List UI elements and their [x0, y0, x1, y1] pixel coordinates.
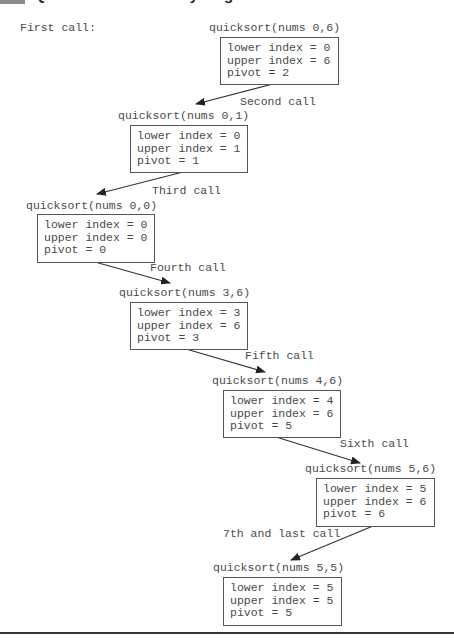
call-4-frame: lower index = 3 upper index = 6 pivot = … — [130, 302, 248, 350]
call-7-frame: lower index = 5 upper index = 5 pivot = … — [223, 577, 342, 626]
first-call-label: First call: — [20, 21, 96, 34]
call-5-arrow-label: Fifth call — [245, 349, 314, 362]
call-2-arrow-label: Second call — [240, 95, 316, 108]
call-1-signature: quicksort(nums 0,6) — [209, 21, 340, 34]
call-4-pivot: pivot = 3 — [137, 332, 247, 345]
call-7-signature: quicksort(nums 5,5) — [213, 561, 344, 574]
call-4-signature: quicksort(nums 3,6) — [119, 286, 250, 299]
call-6-frame: lower index = 5 upper index = 6 pivot = … — [316, 478, 435, 527]
call-6-signature: quicksort(nums 5,6) — [305, 462, 436, 475]
call-3-pivot: pivot = 0 — [44, 244, 154, 257]
call-4-arrow-label: Fourth call — [150, 261, 226, 274]
call-2-lower-index: lower index = 0 — [137, 130, 247, 143]
call-3-frame: lower index = 0 upper index = 0 pivot = … — [37, 214, 155, 263]
call-1-pivot: pivot = 2 — [227, 67, 338, 80]
chapter-heading: Quicksort recursion by diagram — [0, 0, 454, 4]
call-7-pivot: pivot = 5 — [230, 607, 341, 620]
call-3-signature: quicksort(nums 0,0) — [26, 199, 157, 212]
call-6-lower-index: lower index = 5 — [323, 483, 434, 496]
call-6-pivot: pivot = 6 — [323, 508, 434, 521]
figure-bottom-rule — [0, 632, 454, 634]
call-3-lower-index: lower index = 0 — [44, 219, 154, 232]
call-2-pivot: pivot = 1 — [137, 155, 247, 168]
call-1-frame: lower index = 0 upper index = 6 pivot = … — [220, 37, 339, 85]
call-5-lower-index: lower index = 4 — [230, 395, 340, 408]
call-7-lower-index: lower index = 5 — [230, 582, 341, 595]
call-3-arrow-label: Third call — [152, 184, 221, 197]
call-2-signature: quicksort(nums 0,1) — [118, 109, 249, 122]
call-5-signature: quicksort(nums 4,6) — [212, 374, 343, 387]
call-1-lower-index: lower index = 0 — [227, 42, 338, 55]
heading-text: Quicksort recursion by diagram — [34, 0, 261, 3]
heading-marker-block — [0, 0, 25, 4]
call-5-frame: lower index = 4 upper index = 6 pivot = … — [223, 390, 341, 438]
call-5-pivot: pivot = 5 — [230, 420, 340, 433]
call-4-lower-index: lower index = 3 — [137, 307, 247, 320]
call-2-frame: lower index = 0 upper index = 1 pivot = … — [130, 125, 248, 173]
call-7-arrow-label: 7th and last call — [223, 527, 340, 540]
call-6-arrow-label: Sixth call — [340, 437, 409, 450]
